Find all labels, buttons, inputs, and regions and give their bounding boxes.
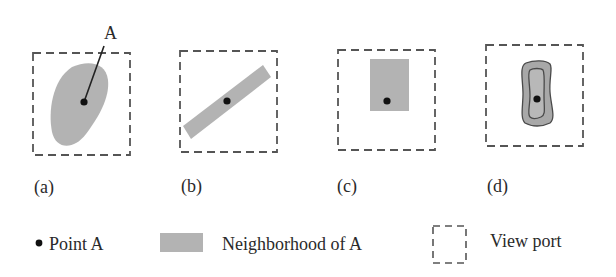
point-b — [223, 97, 230, 104]
panel-a-label: (a) — [34, 178, 54, 196]
legend-neighborhood-swatch — [160, 233, 203, 252]
legend-point-icon — [36, 240, 43, 247]
panel-b — [180, 51, 277, 152]
figure: A (a) (b) (c) (d) Point A Neighborhood o… — [0, 0, 616, 277]
panel-d — [486, 45, 583, 146]
neighborhood-a — [51, 63, 109, 146]
point-a — [80, 98, 87, 105]
point-a-label: A — [104, 24, 117, 42]
panel-b-label: (b) — [181, 177, 202, 195]
point-c — [383, 97, 390, 104]
panel-d-label: (d) — [487, 177, 508, 195]
legend-point-label: Point A — [49, 235, 104, 253]
panel-c — [338, 50, 435, 150]
legend-neighborhood-label: Neighborhood of A — [222, 235, 362, 253]
panel-a — [33, 46, 130, 155]
panel-c-label: (c) — [337, 177, 357, 195]
neighborhood-d-inner — [529, 69, 545, 119]
legend-viewport-icon — [433, 226, 466, 263]
point-d — [533, 95, 540, 102]
legend-viewport-label: View port — [490, 232, 561, 250]
